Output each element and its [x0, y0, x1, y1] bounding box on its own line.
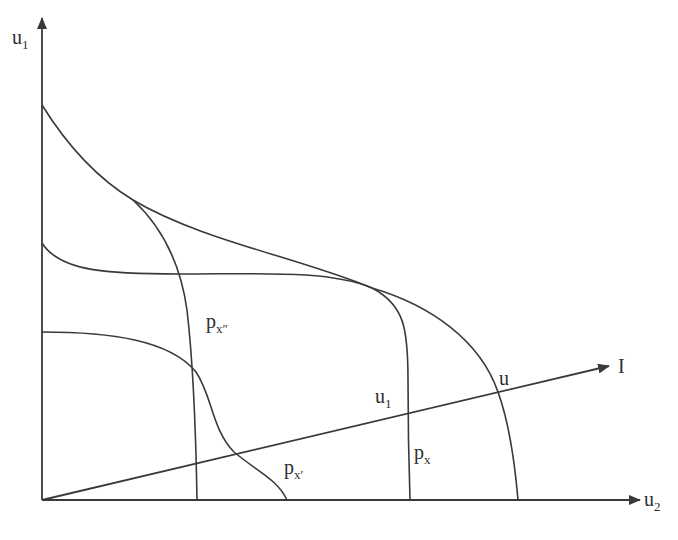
- curve-label-u: u: [499, 367, 509, 389]
- frontier-diagram: u1 u2 I u u1 px px″ px′: [0, 0, 678, 540]
- point-label-u1: u1: [375, 385, 392, 411]
- x-axis-label: u2: [644, 488, 661, 514]
- ray-i: [42, 366, 609, 500]
- y-axis-label: u1: [12, 26, 29, 52]
- curve-label-px-prime: px′: [284, 456, 304, 482]
- curve-px: [42, 243, 410, 500]
- curve-label-px-double-prime: px″: [206, 310, 228, 336]
- ray-label-i: I: [618, 355, 625, 377]
- curve-label-px: px: [414, 441, 431, 467]
- curve-px-prime: [42, 332, 287, 500]
- curve-u: [42, 105, 518, 500]
